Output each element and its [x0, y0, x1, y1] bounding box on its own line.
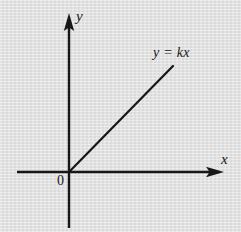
x-axis-label: x [221, 152, 228, 167]
graph-canvas [0, 0, 241, 232]
origin-label: 0 [57, 174, 64, 188]
y-axis-label: y [76, 9, 83, 24]
equation-label: y = kx [153, 46, 190, 60]
coordinate-plane-figure: y x 0 y = kx [0, 0, 241, 232]
line-y-equals-kx [69, 66, 173, 172]
